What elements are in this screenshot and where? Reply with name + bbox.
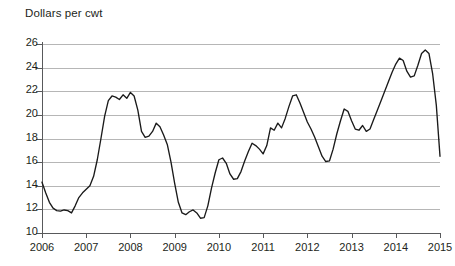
y-tick-label-22: 22 [12,83,38,95]
y-tick-label-10: 10 [12,225,38,237]
gridline-y-16 [42,162,440,163]
plot-area [42,44,440,233]
y-tick-label-14: 14 [12,178,38,190]
gridline-y-18 [42,139,440,140]
x-tick-mark-2012 [307,233,308,238]
gridline-y-26 [42,44,440,45]
gridline-y-24 [42,68,440,69]
x-tick-label-2010: 2010 [207,241,231,253]
x-tick-mark-2013 [352,233,353,238]
x-tick-label-2007: 2007 [74,241,98,253]
x-tick-mark-2015 [440,233,441,238]
y-tick-label-12: 12 [12,201,38,213]
gridline-y-14 [42,186,440,187]
x-tick-label-2014: 2014 [384,241,408,253]
x-tick-mark-2009 [175,233,176,238]
y-axis-line [42,42,43,235]
y-tick-label-26: 26 [12,36,38,48]
x-tick-mark-2014 [396,233,397,238]
x-tick-mark-2007 [86,233,87,238]
x-tick-mark-2011 [263,233,264,238]
x-tick-mark-2010 [219,233,220,238]
x-tick-label-2013: 2013 [339,241,363,253]
x-tick-mark-2008 [130,233,131,238]
x-tick-mark-2006 [42,233,43,238]
x-tick-label-2006: 2006 [30,241,54,253]
gridline-y-12 [42,209,440,210]
chart-container: Dollars per cwt 101214161820222426 20062… [0,0,455,266]
y-tick-label-18: 18 [12,131,38,143]
y-tick-label-16: 16 [12,154,38,166]
x-tick-label-2009: 2009 [162,241,186,253]
y-tick-label-24: 24 [12,60,38,72]
y-axis-labels: 101214161820222426 [0,0,38,266]
x-tick-label-2015: 2015 [428,241,452,253]
gridline-y-22 [42,91,440,92]
x-tick-label-2011: 2011 [251,241,275,253]
x-tick-label-2008: 2008 [118,241,142,253]
gridline-y-20 [42,115,440,116]
x-axis-line [42,233,440,234]
y-tick-label-20: 20 [12,107,38,119]
x-tick-label-2012: 2012 [295,241,319,253]
